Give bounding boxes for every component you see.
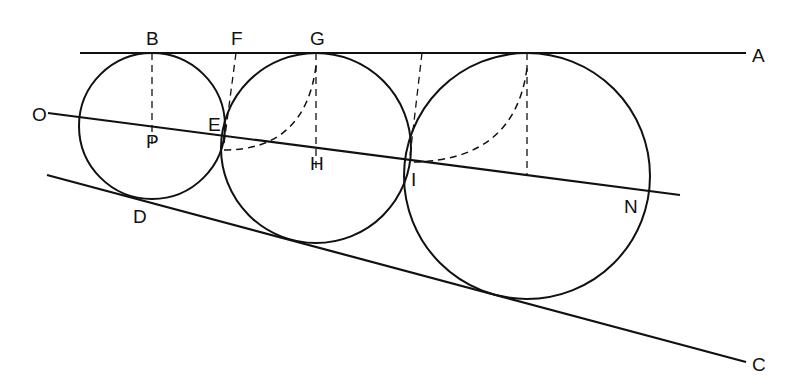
point-label-e: E [208, 114, 221, 135]
point-label-g: G [310, 28, 325, 49]
point-label-h: H [310, 153, 324, 174]
point-label-o: O [32, 104, 47, 125]
circles-layer [79, 53, 650, 299]
point-label-d: D [133, 206, 147, 227]
tangent-circles-diagram: ABFGOEPHINDC [0, 0, 796, 388]
point-label-i: I [411, 169, 416, 190]
point-label-f: F [231, 28, 243, 49]
point-label-a: A [752, 45, 765, 66]
line-o [48, 113, 680, 195]
line-c [47, 175, 746, 362]
point-label-p: P [146, 131, 159, 152]
point-label-b: B [146, 28, 159, 49]
point-label-c: C [752, 354, 766, 375]
dashed-upper-i [410, 53, 422, 156]
point-label-n: N [624, 196, 638, 217]
dashed-arc-i-top3-arc [414, 68, 527, 162]
